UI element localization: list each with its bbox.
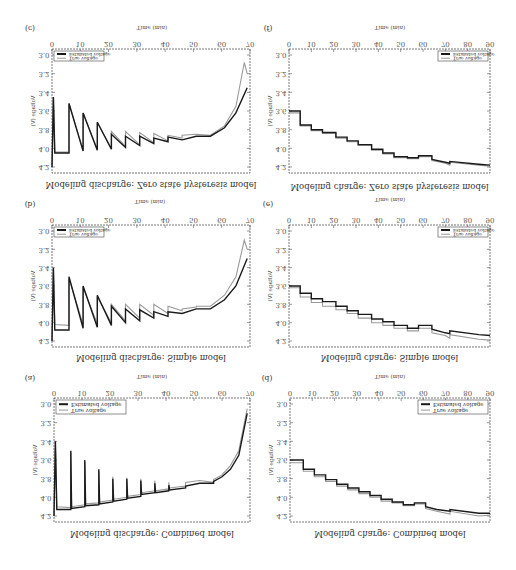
svg-text:True voltage: True voltage [453,56,482,61]
x-tick-label: 70 [246,40,255,48]
legend: Estimated voltageTrue voltage [56,400,126,414]
svg-text:3.2: 3.2 [275,246,286,254]
svg-text:Voltage (V): Voltage (V) [267,270,274,302]
x-tick-label: 40 [374,216,383,224]
svg-text:Voltage (V): Voltage (V) [30,270,37,302]
svg-text:3.8: 3.8 [275,301,286,309]
svg-text:30: 30 [352,216,361,224]
x-tick-label: 70 [441,389,450,397]
svg-text:3.4: 3.4 [275,89,287,97]
svg-text:Voltage (V): Voltage (V) [32,444,39,476]
legend: Estimated voltageTrue voltage [418,400,488,414]
svg-text:20: 20 [106,389,115,397]
x-tick-label: 70 [441,216,450,224]
y-tick-label: 4.2 [275,337,286,345]
true-voltage-line [290,463,490,516]
x-tick-label: 10 [76,40,85,48]
svg-text:30: 30 [132,216,141,224]
legend-entry-label: Estimated voltage [433,401,483,408]
x-tick-label: 80 [463,40,472,48]
svg-text:70: 70 [246,40,255,48]
svg-text:50: 50 [396,40,405,48]
y-axis-title: Voltage (V) [267,270,274,302]
svg-text:3.2: 3.2 [38,70,49,78]
svg-text:3.6: 3.6 [38,107,50,115]
svg-text:40: 40 [374,216,383,224]
y-tick-label: 4.0 [275,319,286,327]
svg-text:60: 60 [218,389,227,397]
x-tick-label: 30 [134,389,143,397]
svg-text:3.2: 3.2 [275,70,286,78]
panel-caption: Modeling charge: Combined model [314,529,466,539]
svg-text:10: 10 [307,216,316,224]
y-tick-label: 3.8 [40,475,51,483]
svg-text:50: 50 [190,389,199,397]
svg-text:3.4: 3.4 [38,264,50,272]
svg-text:3.6: 3.6 [275,107,287,115]
x-tick-label: 50 [190,389,199,397]
y-axis-title: Voltage (V) [267,95,274,127]
panel-label: (b) [25,200,36,209]
x-tick-label: 50 [189,216,198,224]
svg-text:True voltage: True voltage [71,407,106,414]
x-tick-label: 90 [486,40,495,48]
svg-text:30: 30 [134,389,143,397]
panel-label: (c) [25,24,35,33]
svg-text:(e): (e) [263,200,273,209]
svg-text:0: 0 [287,40,291,48]
legend-entry-label: True voltage [71,407,106,414]
y-tick-label: 3.4 [38,264,50,272]
x-tick-label: 40 [374,40,383,48]
plot-frame [52,225,250,347]
svg-text:True voltage: True voltage [69,56,98,61]
y-tick-label: 3.8 [38,301,49,309]
y-tick-label: 3.0 [38,51,49,59]
panel-b: Voltage (V)Estimated voltageTrue voltage [30,225,250,347]
x-tick-label: 10 [307,40,316,48]
svg-text:4.2: 4.2 [40,512,51,520]
svg-text:10: 10 [78,389,87,397]
svg-text:4.2: 4.2 [38,337,49,345]
x-tick-label: 60 [419,40,428,48]
svg-text:20: 20 [104,216,113,224]
panel-caption: Modeling discharge: Zero state hysteresi… [46,180,257,190]
svg-text:3.0: 3.0 [38,227,49,235]
y-tick-label: 4.0 [40,494,51,502]
legend: Estimated voltageTrue voltage [54,51,111,61]
svg-text:70: 70 [246,216,255,224]
legend: Estimated voltageTrue voltage [438,51,495,61]
legend-entry-label: True voltage [69,232,98,237]
y-axis-title: Voltage (V) [30,270,37,302]
y-tick-label: 3.2 [275,246,286,254]
x-tick-label: 10 [308,389,317,397]
y-tick-label: 4.0 [38,319,49,327]
x-tick-label: 0 [288,389,292,397]
x-tick-label: 50 [396,40,405,48]
svg-text:3.8: 3.8 [275,126,286,134]
svg-text:4.2: 4.2 [276,512,287,520]
x-tick-label: 0 [50,40,54,48]
y-tick-label: 3.4 [38,89,50,97]
svg-text:4.0: 4.0 [38,319,49,327]
svg-text:30: 30 [132,40,141,48]
svg-text:3.0: 3.0 [38,51,49,59]
y-tick-label: 4.2 [275,163,286,171]
y-tick-label: 4.0 [276,494,287,502]
svg-text:80: 80 [463,216,472,224]
x-tick-label: 60 [217,216,226,224]
y-tick-label: 3.2 [40,419,51,427]
svg-text:3.6: 3.6 [38,282,50,290]
svg-text:3.0: 3.0 [276,400,287,408]
x-tick-label: 60 [218,389,227,397]
x-tick-label: 90 [486,389,495,397]
legend-entry-label: True voltage [453,56,482,61]
svg-text:90: 90 [486,40,495,48]
y-tick-label: 3.2 [38,70,49,78]
svg-text:Estimated voltage: Estimated voltage [433,401,483,408]
svg-text:10: 10 [307,40,316,48]
svg-text:Modeling charge: Zero state hy: Modeling charge: Zero state hysteresis m… [290,182,489,192]
svg-text:30: 30 [352,40,361,48]
x-tick-label: 50 [396,216,405,224]
svg-text:40: 40 [161,40,170,48]
svg-text:90: 90 [486,389,495,397]
